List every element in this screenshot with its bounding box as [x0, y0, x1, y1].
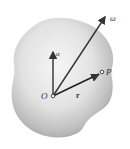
diagram-svg: ω α P r O	[0, 0, 130, 149]
label-o: O	[41, 91, 48, 101]
label-alpha: α	[56, 50, 60, 58]
point-p	[100, 70, 104, 74]
rigid-body-shape	[12, 18, 114, 138]
rigid-body-diagram: ω α P r O	[0, 0, 130, 149]
label-omega: ω	[110, 14, 116, 23]
label-r: r	[76, 91, 80, 100]
origin-point	[51, 94, 55, 98]
label-p: P	[105, 67, 112, 77]
